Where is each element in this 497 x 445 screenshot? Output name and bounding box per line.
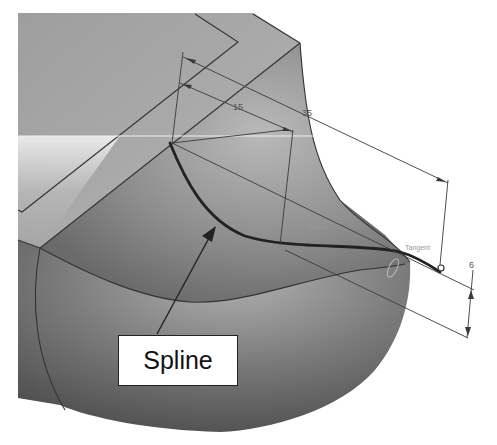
spline-callout-box: Spline [118,335,238,386]
dim-label-6: 6 [469,260,474,270]
dim-label-15: 15 [233,102,243,112]
endpoint-marker [438,265,444,271]
spline-tag: Spline [308,224,328,232]
spline-callout-label: Spline [143,346,213,375]
cad-figure: Tangent Spline 15 35 6 [0,0,497,445]
dim-label-35: 35 [302,108,312,118]
tangency-tag: Tangent [405,244,430,252]
